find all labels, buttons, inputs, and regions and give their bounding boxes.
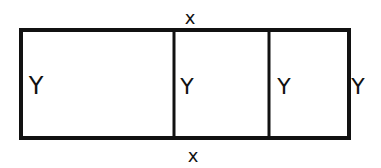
label-left-y: Y <box>28 72 44 100</box>
fence-diagram: x x Y Y Y Y <box>0 0 381 168</box>
label-divider2-y: Y <box>276 74 291 99</box>
label-bottom-x: x <box>188 145 199 166</box>
label-top-x: x <box>185 7 196 28</box>
label-right-y: Y <box>350 74 365 99</box>
label-divider1-y: Y <box>179 74 194 99</box>
